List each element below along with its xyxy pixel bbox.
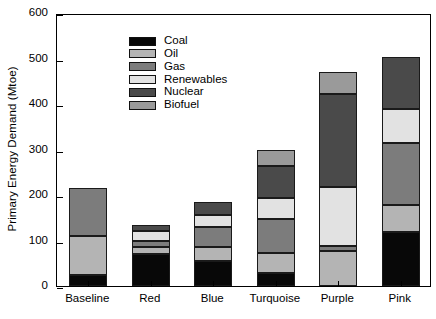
bar-segment-oil <box>382 205 420 232</box>
x-tick <box>401 281 402 286</box>
y-tick <box>57 197 63 198</box>
x-tick <box>338 281 339 286</box>
y-tick-label: 400 <box>8 98 48 110</box>
bar-segment-nuclear <box>194 202 232 216</box>
bar-segment-gas <box>319 246 357 251</box>
bar-segment-gas <box>69 188 107 236</box>
y-tick <box>57 152 63 153</box>
bar-segment-gas <box>257 219 295 253</box>
legend-label: Biofuel <box>164 99 199 111</box>
legend-item-renewables: Renewables <box>129 73 227 85</box>
bar-segment-biofuel <box>319 72 357 93</box>
legend-swatch-coal <box>129 37 156 46</box>
y-tick <box>57 61 63 62</box>
bar-baseline <box>69 188 107 286</box>
x-tick <box>88 281 89 286</box>
bar-blue <box>194 202 232 286</box>
bar-segment-renewables <box>319 187 357 246</box>
bar-segment-nuclear <box>132 225 170 232</box>
legend-item-oil: Oil <box>129 48 227 60</box>
y-tick-label: 0 <box>8 280 48 292</box>
legend-swatch-oil <box>129 49 156 58</box>
bar-segment-biofuel <box>257 150 295 166</box>
bar-segment-renewables <box>194 215 232 226</box>
bar-segment-nuclear <box>319 94 357 187</box>
bar-red <box>132 225 170 286</box>
bar-segment-oil <box>132 247 170 254</box>
x-tick-label-pink: Pink <box>360 292 436 304</box>
plot-area: CoalOilGasRenewablesNuclearBiofuel <box>56 14 431 287</box>
y-tick <box>57 288 63 289</box>
bar-segment-coal <box>382 232 420 286</box>
bar-segment-renewables <box>257 198 295 218</box>
legend-item-gas: Gas <box>129 61 227 73</box>
legend-label: Oil <box>164 48 178 60</box>
legend-swatch-biofuel <box>129 101 156 110</box>
y-tick-label: 300 <box>8 144 48 156</box>
bar-segment-gas <box>132 241 170 248</box>
bar-segment-gas <box>382 143 420 205</box>
legend-swatch-gas <box>129 62 156 71</box>
legend-item-biofuel: Biofuel <box>129 99 227 111</box>
legend-label: Renewables <box>164 74 227 86</box>
bar-segment-oil <box>69 236 107 275</box>
bar-segment-oil <box>257 253 295 273</box>
legend-item-nuclear: Nuclear <box>129 86 227 98</box>
chart-legend: CoalOilGasRenewablesNuclearBiofuel <box>129 35 227 112</box>
legend-label: Gas <box>164 61 185 73</box>
x-tick <box>276 281 277 286</box>
x-tick <box>213 281 214 286</box>
bar-segment-nuclear <box>257 166 295 198</box>
legend-item-coal: Coal <box>129 35 227 47</box>
bar-segment-oil <box>194 247 232 261</box>
y-tick-label: 600 <box>8 7 48 19</box>
y-tick <box>57 15 63 16</box>
legend-swatch-nuclear <box>129 88 156 97</box>
y-tick-label: 500 <box>8 53 48 65</box>
x-tick <box>151 281 152 286</box>
bar-segment-gas <box>194 227 232 247</box>
bar-segment-nuclear <box>382 57 420 108</box>
y-tick-label: 200 <box>8 189 48 201</box>
bar-pink <box>382 57 420 286</box>
chart-figure: Primary Energy Demand (Mtoe) 01002003004… <box>0 0 436 319</box>
legend-swatch-renewables <box>129 75 156 84</box>
y-tick <box>57 243 63 244</box>
bar-purple <box>319 72 357 286</box>
y-tick-label: 100 <box>8 235 48 247</box>
legend-label: Nuclear <box>164 86 204 98</box>
y-tick <box>57 106 63 107</box>
bar-turquoise <box>257 150 295 286</box>
bar-segment-renewables <box>132 231 170 240</box>
legend-label: Coal <box>164 35 188 47</box>
bar-segment-renewables <box>382 109 420 143</box>
